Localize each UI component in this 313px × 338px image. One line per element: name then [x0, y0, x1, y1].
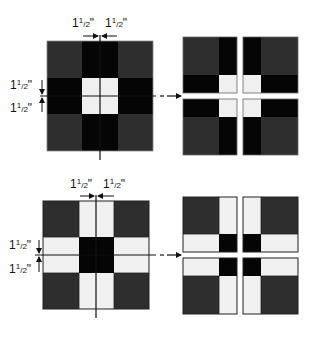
patch-piece — [243, 276, 261, 314]
patch-piece — [219, 258, 237, 276]
patch-piece — [219, 117, 237, 155]
patch-piece — [219, 37, 237, 75]
patch-piece — [183, 117, 219, 155]
patch-piece — [261, 258, 298, 276]
patch-piece — [261, 197, 298, 234]
patch-piece — [261, 75, 298, 93]
patch-piece — [219, 276, 237, 314]
patch-corner-tr — [114, 201, 149, 237]
patch-corner-tl — [47, 41, 82, 78]
patch-corner-bl — [47, 114, 82, 151]
block-cutting-diagram: 11/2" 11/2" 11/2" 11/2" — [0, 0, 313, 338]
patch-piece — [219, 234, 237, 252]
patch-corner-tr — [118, 41, 153, 78]
dim-label-left-upper: 11/2" — [10, 78, 32, 92]
bottom-quarter-br — [243, 258, 298, 314]
dim-label-top-right: 11/2" — [103, 177, 125, 191]
dim-label-left-upper: 11/2" — [9, 238, 31, 252]
top-quarter-bl — [183, 99, 237, 155]
patch-corner-bl — [43, 273, 79, 309]
patch-piece — [183, 276, 219, 314]
patch-piece — [243, 117, 261, 155]
bottom-quarter-tr — [243, 197, 298, 252]
patch-piece — [243, 234, 261, 252]
bottom-example: 11/2" 11/2" 11/2" 11/2" — [9, 177, 298, 318]
patch-piece — [243, 75, 261, 93]
patch-piece — [243, 37, 261, 75]
patch-piece — [183, 37, 219, 75]
top-example: 11/2" 11/2" 11/2" 11/2" — [10, 16, 298, 160]
patch-piece — [261, 37, 298, 75]
bottom-quarter-bl — [183, 258, 237, 314]
dim-label-top-right: 11/2" — [105, 16, 127, 30]
dim-label-top-left: 11/2" — [72, 16, 94, 30]
dim-label-left-lower: 11/2" — [9, 262, 31, 276]
patch-piece — [183, 99, 219, 117]
dim-label-top-left: 11/2" — [70, 177, 92, 191]
patch-piece — [261, 99, 298, 117]
patch-piece — [183, 75, 219, 93]
patch-piece — [219, 75, 237, 93]
patch-piece — [219, 197, 237, 234]
patch-piece — [261, 117, 298, 155]
bottom-quarter-tl — [183, 197, 237, 252]
top-quarter-tl — [183, 37, 237, 93]
patch-piece — [183, 197, 219, 234]
top-quarter-br — [243, 99, 298, 155]
patch-piece — [261, 234, 298, 252]
patch-piece — [183, 258, 219, 276]
patch-piece — [243, 258, 261, 276]
patch-corner-tl — [43, 201, 79, 237]
patch-piece — [243, 99, 261, 117]
patch-piece — [261, 276, 298, 314]
dim-label-left-lower: 11/2" — [10, 101, 32, 115]
top-quarter-tr — [243, 37, 298, 93]
patch-piece — [183, 234, 219, 252]
patch-corner-br — [114, 273, 149, 309]
patch-piece — [243, 197, 261, 234]
patch-corner-br — [118, 114, 153, 151]
patch-piece — [219, 99, 237, 117]
